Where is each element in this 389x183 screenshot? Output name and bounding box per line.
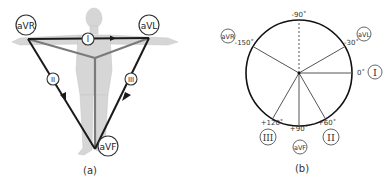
svg-text:aVF: aVF xyxy=(294,144,306,152)
angle-label-plus60: +60˚ xyxy=(318,118,336,127)
lead-label-III: III xyxy=(125,73,137,85)
axis-minus30 xyxy=(299,47,345,74)
angle-label-minus30: -30˚ xyxy=(344,38,359,47)
lead-axes xyxy=(253,47,352,127)
lead-label-aVR: aVR xyxy=(16,15,36,35)
lead-label-aVR: aVR xyxy=(221,29,235,43)
lead-label-I: I xyxy=(82,33,94,45)
lead-label-aVF: aVF xyxy=(293,140,307,154)
angle-label-plus90: +90˚ xyxy=(290,124,308,133)
axis-plus120 xyxy=(273,73,300,119)
svg-text:II: II xyxy=(51,76,55,84)
svg-text:II: II xyxy=(327,132,335,143)
einthoven-triangle-panel: aVR aVL aVF I II III (a) xyxy=(0,0,195,183)
lead-label-aVL: aVL xyxy=(139,15,159,35)
panel-b-caption: (b) xyxy=(295,163,309,174)
panel-a-caption: (a) xyxy=(83,165,97,176)
lead-label-I: I xyxy=(368,65,382,79)
svg-text:aVR: aVR xyxy=(222,33,235,41)
svg-text:III: III xyxy=(263,133,274,143)
hexaxial-reference-panel: -90˚ -150˚ -30˚ 0˚ +120˚ +90˚ +60˚ aVR a… xyxy=(195,0,389,183)
svg-text:aVL: aVL xyxy=(358,31,370,39)
svg-text:III: III xyxy=(128,76,134,84)
lead-label-II: II xyxy=(323,129,339,145)
angle-label-0: 0˚ xyxy=(357,68,365,77)
angle-label-minus150: -150˚ xyxy=(235,38,254,47)
angle-label-plus120: +120˚ xyxy=(261,118,284,127)
lead-label-III: III xyxy=(260,129,276,145)
axis-plus60 xyxy=(299,73,326,119)
einthoven-triangle-figure: aVR aVL aVF I II III (a) xyxy=(0,0,195,183)
svg-text:I: I xyxy=(87,35,89,44)
lead-label-aVL: aVL xyxy=(357,27,371,41)
svg-text:aVF: aVF xyxy=(100,142,117,152)
hexaxial-reference-figure: -90˚ -150˚ -30˚ 0˚ +120˚ +90˚ +60˚ aVR a… xyxy=(195,0,389,183)
lead-label-aVF: aVF xyxy=(98,136,118,156)
svg-text:aVL: aVL xyxy=(141,21,158,31)
angle-label-minus90: -90˚ xyxy=(292,10,307,19)
svg-text:I: I xyxy=(373,67,377,78)
lead-label-II: II xyxy=(47,73,59,85)
lead-iii-arrow-icon xyxy=(122,92,131,101)
svg-text:aVR: aVR xyxy=(17,21,35,31)
axis-minus150 xyxy=(253,47,299,74)
